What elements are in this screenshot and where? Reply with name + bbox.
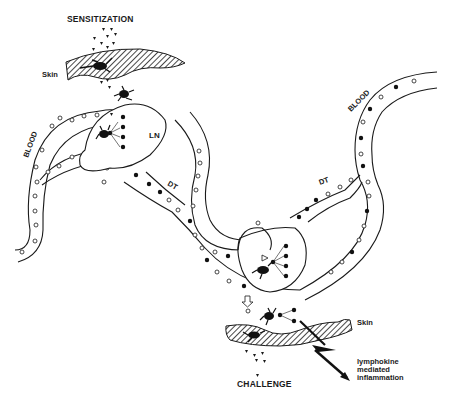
duct-label-left: DT	[166, 179, 180, 192]
outcome-label-line3: inflammation	[357, 373, 404, 382]
challenge-label: CHALLENGE	[237, 379, 292, 389]
egress-arrow-icon	[242, 296, 253, 307]
lymph-node-label: LN	[149, 131, 160, 140]
lymphocyte-egress	[246, 309, 250, 313]
skin-layer-top	[66, 49, 185, 80]
skin-label-bottom: Skin	[357, 318, 373, 327]
effector-cell-pair	[260, 308, 296, 325]
antigen-cluster-bottom	[245, 350, 266, 377]
sensitized-lymphocytes-duct-left	[134, 173, 180, 212]
lymph-node-bottom	[238, 227, 306, 292]
skin-label-top: Skin	[42, 70, 58, 79]
antigen-cluster-top	[92, 28, 117, 51]
duct-label-right: DT	[318, 175, 331, 187]
delayed-hypersensitivity-diagram: SENSITIZATION Skin BLOOD	[0, 0, 452, 400]
antigen-cluster-below-skin	[100, 79, 111, 89]
sensitization-label: SENSITIZATION	[67, 14, 134, 24]
migrating-langerhans-cell	[114, 86, 134, 101]
